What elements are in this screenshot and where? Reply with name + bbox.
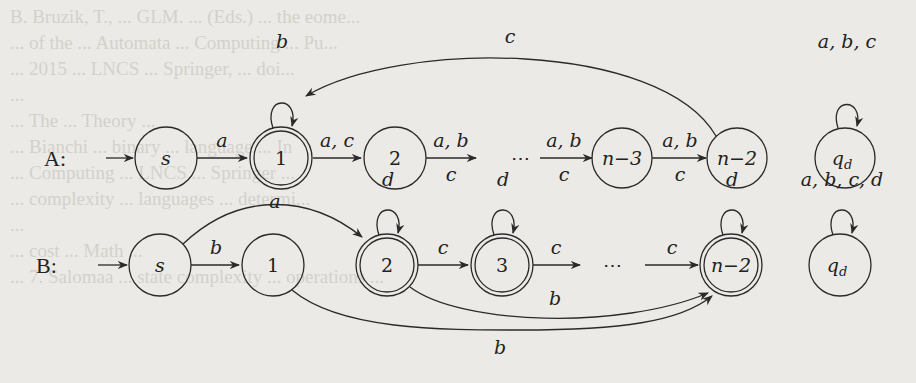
state-b-1: 1 — [242, 234, 304, 296]
svg-text:c: c — [551, 236, 562, 258]
loop-b-2 — [377, 210, 399, 235]
svg-text:a, b: a, b — [546, 129, 582, 151]
svg-text:n−3: n−3 — [602, 147, 642, 169]
state-a-n3: n−3 — [592, 128, 652, 188]
svg-text:a, c: a, c — [320, 129, 354, 151]
automaton-a-label: A: — [44, 146, 66, 171]
state-b-2: 2 — [356, 234, 418, 296]
svg-text:c: c — [505, 25, 516, 47]
svg-text:a, b, c: a, b, c — [818, 30, 877, 52]
svg-text:c: c — [667, 236, 678, 258]
state-a-2: 2 — [364, 127, 426, 189]
state-b-3: 3 — [471, 234, 533, 296]
svg-text:a, b: a, b — [433, 129, 469, 151]
ellipsis-b: ⋯ — [603, 254, 622, 276]
svg-text:b: b — [276, 30, 288, 52]
svg-text:2: 2 — [389, 147, 401, 169]
svg-text:c: c — [446, 163, 457, 185]
svg-text:b: b — [210, 236, 222, 258]
transition-a-n2-1 — [306, 58, 716, 136]
state-b-qd: qd — [809, 234, 871, 296]
svg-text:a, b: a, b — [662, 129, 698, 151]
automaton-b: B: s b a 1 2 d c — [36, 168, 883, 358]
state-a-s: s — [135, 127, 197, 189]
state-a-1: 1 — [250, 127, 312, 189]
svg-text:s: s — [155, 254, 165, 276]
loop-b-n2 — [721, 210, 743, 235]
loop-b-qd — [831, 210, 853, 235]
ellipsis-a: ⋯ — [511, 147, 530, 169]
svg-text:a: a — [216, 129, 227, 151]
svg-text:n−2: n−2 — [717, 147, 757, 169]
loop-b-3 — [492, 210, 514, 235]
automaton-a: A: s a 1 b a, c 2 a, b c — [44, 25, 877, 189]
svg-text:c: c — [559, 163, 570, 185]
state-b-n2: n−2 — [700, 234, 762, 296]
svg-text:c: c — [438, 236, 449, 258]
svg-text:1: 1 — [275, 147, 287, 169]
svg-text:c: c — [675, 163, 686, 185]
svg-text:a, b, c, d: a, b, c, d — [801, 168, 884, 190]
automata-figure: A: s a 1 b a, c 2 a, b c — [0, 0, 916, 383]
automaton-b-label: B: — [36, 253, 57, 278]
svg-text:a: a — [269, 190, 280, 212]
state-b-s: s — [129, 234, 191, 296]
svg-text:d: d — [382, 168, 394, 190]
svg-text:1: 1 — [267, 254, 279, 276]
svg-text:b: b — [549, 287, 561, 309]
loop-a-1 — [271, 103, 293, 128]
svg-text:n−2: n−2 — [711, 254, 751, 276]
svg-text:d: d — [497, 168, 509, 190]
svg-text:d: d — [726, 168, 738, 190]
svg-text:3: 3 — [496, 254, 508, 276]
svg-text:2: 2 — [381, 254, 393, 276]
svg-text:b: b — [494, 336, 506, 358]
loop-a-qd — [836, 104, 858, 128]
svg-text:s: s — [161, 147, 171, 169]
svg-text:qd: qd — [827, 254, 848, 279]
